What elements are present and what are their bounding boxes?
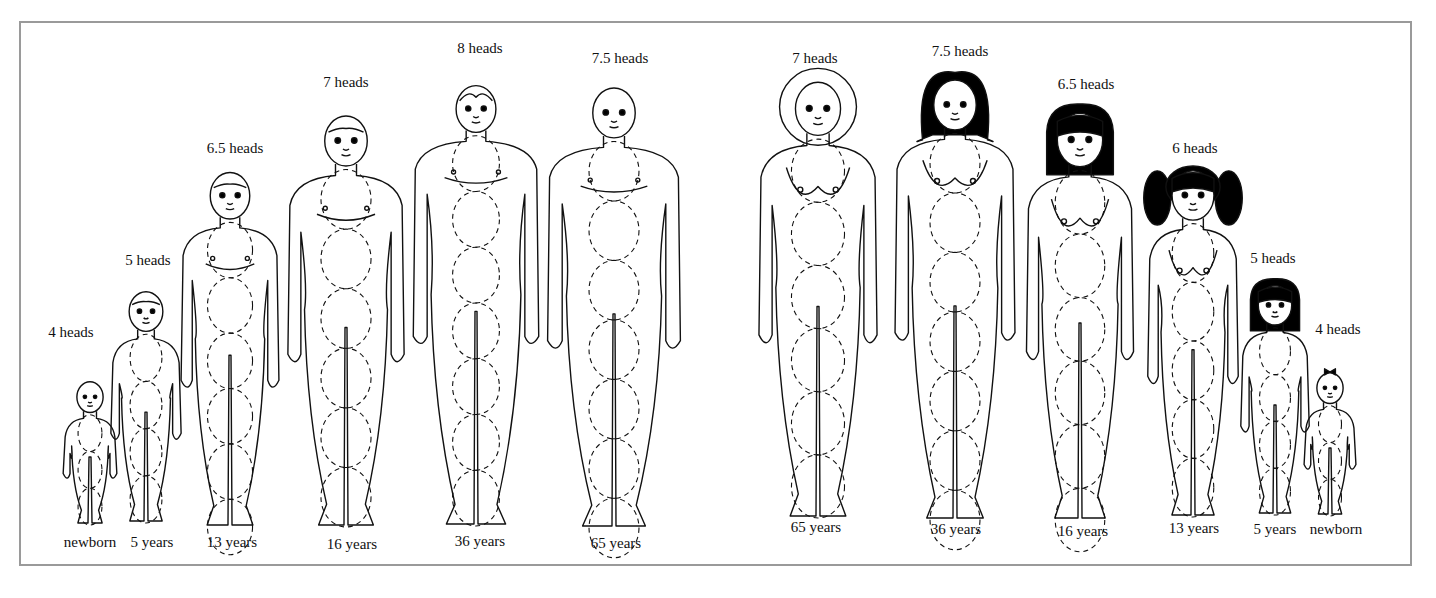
heads-label: 7.5 heads — [592, 50, 649, 67]
age-label: 36 years — [931, 521, 981, 538]
heads-label: 6 heads — [1172, 140, 1217, 157]
age-label: 65 years — [591, 535, 641, 552]
female-newborn — [1284, 369, 1376, 526]
heads-label: 8 heads — [457, 40, 502, 57]
male-65 — [524, 82, 704, 538]
age-label: 16 years — [1058, 523, 1108, 540]
heads-label: 7 heads — [323, 74, 368, 91]
heads-label: 7.5 heads — [932, 43, 989, 60]
age-label: 13 years — [207, 534, 257, 551]
male-65-figure-icon — [524, 82, 704, 538]
age-label: newborn — [1310, 521, 1363, 538]
age-label: 13 years — [1169, 520, 1219, 537]
heads-label: 5 heads — [1250, 250, 1295, 267]
age-label: 65 years — [791, 519, 841, 536]
age-label: newborn — [64, 534, 117, 551]
heads-label: 4 heads — [48, 324, 93, 341]
age-label: 16 years — [327, 536, 377, 553]
heads-label: 6.5 heads — [207, 140, 264, 157]
age-label: 36 years — [455, 533, 505, 550]
heads-label: 4 heads — [1315, 321, 1360, 338]
female-newborn-figure-icon — [1284, 369, 1376, 526]
heads-label: 7 heads — [792, 50, 837, 67]
heads-label: 6.5 heads — [1058, 76, 1115, 93]
